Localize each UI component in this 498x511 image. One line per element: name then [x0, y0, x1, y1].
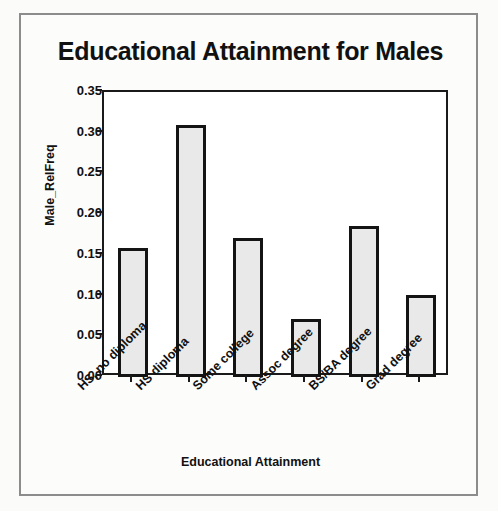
- page-background: Educational Attainment for Males Male_Re…: [0, 0, 498, 511]
- x-axis-tick-mark: [188, 375, 190, 382]
- bars-container: [104, 92, 446, 373]
- x-axis-tick-mark: [418, 375, 420, 382]
- x-axis-category-labels: HS, no diplomaHS diplomaSome collegeAsso…: [102, 383, 448, 453]
- x-axis-title: Educational Attainment: [21, 455, 480, 469]
- chart-title: Educational Attainment for Males: [21, 37, 480, 66]
- bar: [233, 238, 263, 377]
- plot-area: [102, 90, 448, 375]
- x-axis-tick-mark: [361, 375, 363, 382]
- x-axis-tick-mark: [245, 375, 247, 382]
- y-axis-title: Male_RelFreq: [43, 110, 57, 260]
- chart-figure-frame: Educational Attainment for Males Male_Re…: [19, 13, 478, 496]
- x-axis-tick-mark: [303, 375, 305, 382]
- bar: [118, 248, 148, 377]
- x-axis-tick-mark: [130, 375, 132, 382]
